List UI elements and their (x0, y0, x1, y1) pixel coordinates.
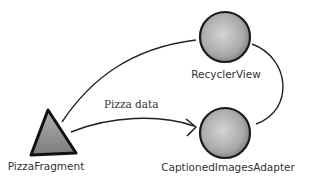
adapter-node (200, 108, 250, 158)
recyclerview-node (200, 12, 250, 62)
arrowhead-icon (186, 119, 196, 136)
edge-recyclerview-to-adapter (252, 44, 283, 124)
recyclerview-label: RecyclerView (191, 68, 261, 80)
pizzafragment-label: PizzaFragment (8, 160, 85, 172)
pizza-data-label: Pizza data (104, 98, 159, 110)
pizzafragment-node (31, 110, 76, 155)
edge-fragment-to-adapter (71, 118, 194, 132)
adapter-label: CaptionedImagesAdapter (161, 161, 295, 173)
